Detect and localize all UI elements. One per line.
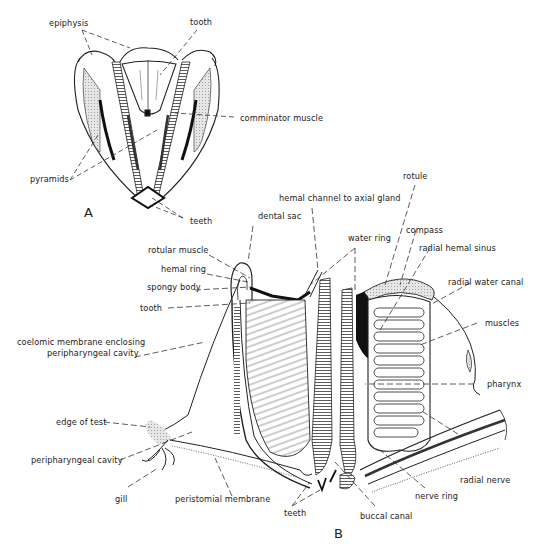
label-hemal-ring: hemal ring	[161, 264, 206, 274]
label-comminator-muscle: comminator muscle	[240, 113, 323, 123]
panel-b-section	[142, 263, 507, 492]
label-compass: compass	[406, 225, 443, 235]
panel-b-letter: B	[334, 526, 343, 541]
panel-a-lantern	[74, 48, 219, 208]
label-gill: gill	[115, 494, 127, 504]
panel-a-letter: A	[84, 205, 93, 220]
label-rotule: rotule	[403, 171, 428, 181]
label-pharynx: pharynx	[487, 379, 521, 389]
label-radial-hemal-sinus: radial hemal sinus	[419, 243, 496, 253]
label-muscles: muscles	[485, 318, 519, 328]
label-water-ring: water ring	[348, 233, 391, 243]
label-rotular-muscle: rotular muscle	[148, 245, 209, 255]
label-nerve-ring: nerve ring	[415, 491, 458, 501]
label-teeth-a: teeth	[190, 216, 212, 226]
label-radial-nerve: radial nerve	[460, 475, 510, 485]
label-epiphysis: epiphysis	[49, 18, 88, 28]
label-pyramids: pyramids	[30, 174, 69, 184]
label-hemal-channel: hemal channel to axial gland	[279, 193, 401, 203]
label-tooth-b: tooth	[140, 303, 162, 313]
label-radial-water-canal: radial water canal	[448, 277, 523, 287]
label-dental-sac: dental sac	[258, 211, 301, 221]
label-coelomic-membrane-line1: coelomic membrane enclosing	[17, 337, 145, 347]
label-peripharyngeal-cavity: peripharyngeal cavity	[31, 455, 123, 465]
label-teeth-b: teeth	[284, 508, 306, 518]
label-edge-of-test: edge of test	[56, 417, 107, 427]
label-coelomic-membrane-line2: peripharyngeal cavity	[47, 348, 139, 358]
label-buccal-canal: buccal canal	[360, 511, 412, 521]
label-tooth-a: tooth	[190, 17, 212, 27]
label-peristomial-membrane: peristomial membrane	[175, 494, 270, 504]
label-spongy-body: spongy body	[147, 282, 201, 292]
